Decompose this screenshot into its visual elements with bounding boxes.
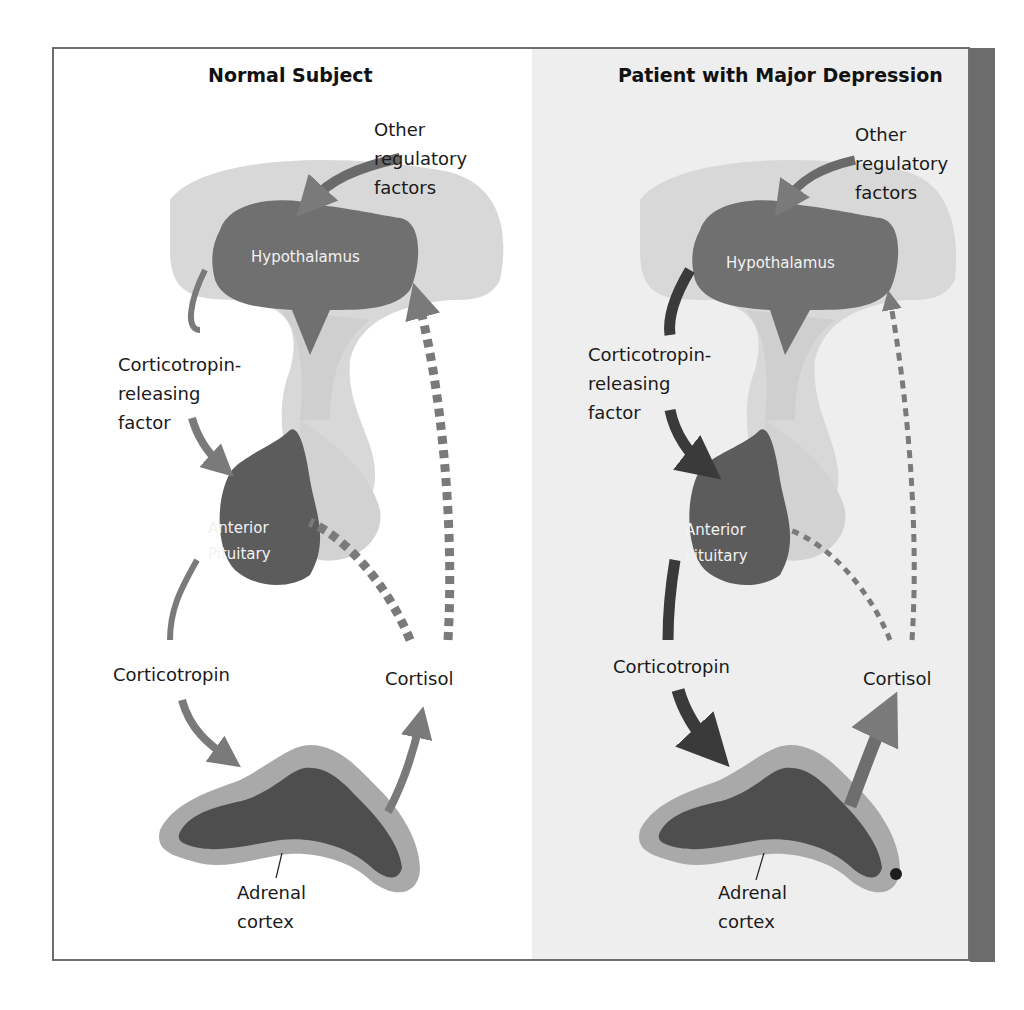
corticotropin-arrow [182, 700, 228, 758]
label-crf: Corticotropin- releasing factor [118, 350, 241, 437]
panel-title-depression: Patient with Major Depression [618, 64, 943, 86]
corticotropin-arrow [678, 690, 712, 748]
label-hypothalamus: Hypothalamus [726, 250, 835, 276]
panel-title-normal: Normal Subject [208, 64, 373, 86]
label-adrenal-cortex: Adrenal cortex [718, 878, 787, 936]
corticotropin-arrow-top [170, 560, 197, 640]
hypothalamus-shape [692, 200, 898, 355]
label-corticotropin: Corticotropin [113, 660, 230, 689]
label-crf: Corticotropin- releasing factor [588, 340, 711, 427]
cortisol-release-arrow [850, 715, 886, 806]
corticotropin-arrow-top [668, 560, 675, 640]
label-anterior-pituitary: Anterior Pituitary [208, 515, 271, 567]
adrenal-dot [890, 868, 902, 880]
label-corticotropin: Corticotropin [613, 652, 730, 681]
label-cortisol: Cortisol [863, 664, 931, 693]
label-adrenal-cortex: Adrenal cortex [237, 878, 306, 936]
label-other-regulatory-factors: Other regulatory factors [855, 120, 948, 207]
cortisol-release-arrow [388, 722, 420, 812]
label-cortisol: Cortisol [385, 664, 453, 693]
label-hypothalamus: Hypothalamus [251, 244, 360, 270]
hypothalamus-shape [212, 200, 418, 355]
cortisol-feedback-hypothalamus [418, 300, 450, 640]
cortisol-feedback-hypothalamus [890, 300, 914, 640]
label-anterior-pituitary: Anterior Pituitary [685, 517, 748, 569]
label-other-regulatory-factors: Other regulatory factors [374, 115, 467, 202]
